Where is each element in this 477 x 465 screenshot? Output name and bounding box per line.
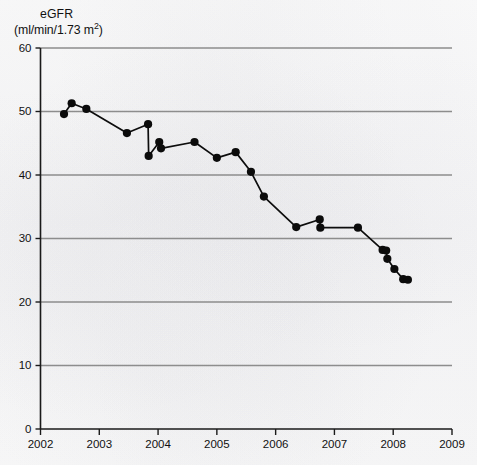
data-point: [232, 148, 240, 156]
y-axis-title-units: (ml/min/1.73 m2): [14, 22, 103, 38]
y-axis-units-suffix: ): [99, 23, 103, 37]
y-tick-label-30: 30: [19, 232, 32, 244]
egfr-line-chart: 0102030405060 20022003200420052006200720…: [0, 0, 477, 465]
x-tick-label-2003: 2003: [86, 438, 112, 450]
data-point: [68, 99, 76, 107]
data-point: [157, 144, 165, 152]
data-point: [354, 224, 362, 232]
egfr-series-markers: [60, 99, 412, 284]
data-point: [60, 110, 68, 118]
y-axis-title-main: eGFR: [14, 6, 103, 22]
y-axis-units-prefix: (ml/min/1.73 m: [14, 23, 94, 37]
x-tick-label-2004: 2004: [145, 438, 171, 450]
egfr-series-line: [64, 103, 408, 280]
data-point: [292, 223, 300, 231]
y-tick-label-50: 50: [19, 105, 32, 117]
y-tick-label-40: 40: [19, 169, 32, 181]
data-point: [145, 152, 153, 160]
x-tick-label-2008: 2008: [380, 438, 406, 450]
y-axis-ticks: 0102030405060: [19, 42, 41, 435]
y-tick-label-0: 0: [25, 423, 31, 435]
y-tick-label-20: 20: [19, 296, 32, 308]
x-tick-label-2007: 2007: [322, 438, 348, 450]
data-point: [247, 168, 255, 176]
data-point: [316, 224, 324, 232]
data-point: [383, 255, 391, 263]
data-point: [82, 105, 90, 113]
x-tick-label-2005: 2005: [204, 438, 230, 450]
data-point: [316, 215, 324, 223]
data-point: [213, 154, 221, 162]
data-point: [404, 276, 412, 284]
x-tick-label-2006: 2006: [263, 438, 289, 450]
data-point: [260, 192, 268, 200]
gridlines: [41, 48, 453, 366]
data-point: [382, 246, 390, 254]
data-point: [123, 129, 131, 137]
data-point: [190, 138, 198, 146]
data-point: [390, 265, 398, 273]
chart-canvas: 0102030405060 20022003200420052006200720…: [0, 0, 477, 465]
x-axis-ticks: 20022003200420052006200720082009: [28, 429, 465, 450]
y-tick-label-10: 10: [19, 359, 32, 371]
data-point: [144, 120, 152, 128]
x-tick-label-2009: 2009: [439, 438, 465, 450]
x-tick-label-2002: 2002: [28, 438, 54, 450]
y-axis-title: eGFR (ml/min/1.73 m2): [14, 6, 103, 38]
y-tick-label-60: 60: [19, 42, 32, 54]
